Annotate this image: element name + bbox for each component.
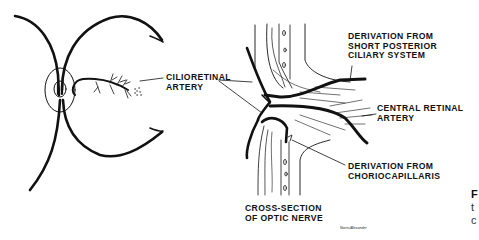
- label-line: ARTERY: [377, 114, 464, 124]
- label-choriocapillaris: DERIVATION FROM CHORIOCAPILLARIS: [348, 162, 440, 181]
- illustrator-signature: Norris/Alexander: [340, 226, 367, 230]
- label-line: CILIARY SYSTEM: [348, 51, 437, 61]
- label-short-posterior-ciliary: DERIVATION FROM SHORT POSTERIOR CILIARY …: [348, 32, 437, 61]
- cilioretinal-artery-diagram: CILIORETINAL ARTERY DERIVATION FROM SHOR…: [0, 0, 479, 240]
- label-line: ARTERY: [166, 83, 231, 93]
- clipped-figure-caption: F t c: [471, 188, 478, 227]
- caption-fragment: t: [471, 201, 478, 214]
- caption-fragment: c: [471, 214, 478, 227]
- fundus-view: [15, 16, 163, 190]
- label-optic-nerve-cross-section: CROSS-SECTION OF OPTIC NERVE: [245, 204, 323, 223]
- label-line: OF OPTIC NERVE: [245, 214, 323, 224]
- label-central-retinal-artery: CENTRAL RETINAL ARTERY: [377, 104, 464, 123]
- label-cilioretinal-artery: CILIORETINAL ARTERY: [166, 73, 231, 92]
- label-line: CHORIOCAPILLARIS: [348, 172, 440, 182]
- caption-fragment: F: [471, 188, 478, 200]
- speckle-terminal: [134, 87, 141, 95]
